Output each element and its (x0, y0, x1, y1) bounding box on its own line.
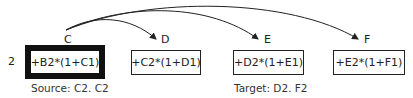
cell-f2[interactable]: +E2*(1+F1) (333, 50, 405, 75)
cell-formula: +C2*(1+D1) (131, 56, 201, 69)
cell-formula: +D2*(1+E1) (234, 56, 303, 69)
cell-formula: +B2*(1+C1) (31, 56, 100, 69)
cell-d2[interactable]: +C2*(1+D1) (131, 50, 201, 75)
cell-formula: +E2*(1+F1) (336, 56, 403, 69)
column-label-e: E (264, 34, 271, 45)
arrow-c-to-d (66, 20, 156, 39)
column-label-f: F (364, 34, 370, 45)
target-caption: Target: D2. F2 (234, 82, 308, 94)
arrow-c-to-f (66, 6, 358, 39)
column-label-d: D (161, 34, 169, 45)
cell-c2-source[interactable]: +B2*(1+C1) (25, 45, 105, 79)
cell-e2[interactable]: +D2*(1+E1) (233, 50, 304, 75)
column-label-c: C (64, 34, 72, 45)
row-label: 2 (8, 56, 15, 67)
source-caption: Source: C2. C2 (31, 82, 109, 94)
